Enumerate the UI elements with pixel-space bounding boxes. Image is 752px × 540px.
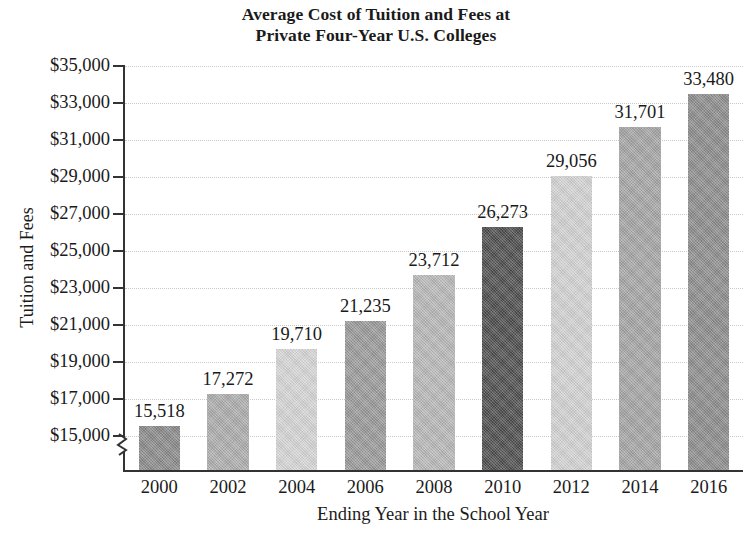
x-axis-tick-label: 2000	[125, 477, 194, 497]
y-axis-tick-label: $27,000	[10, 204, 110, 222]
y-axis-tick-label: $15,000	[10, 426, 110, 444]
bar-value-label: 15,518	[122, 402, 198, 421]
chart-title: Average Cost of Tuition and Fees at Priv…	[0, 4, 752, 46]
y-axis-tick-label: $33,000	[10, 93, 110, 111]
chart-title-line-1: Average Cost of Tuition and Fees at	[0, 4, 752, 25]
bar-value-label: 33,480	[671, 70, 747, 89]
bar	[551, 176, 592, 470]
x-axis-tick-label: 2006	[331, 477, 400, 497]
bar-value-label: 19,710	[259, 325, 335, 344]
bar-value-label: 29,056	[534, 152, 610, 171]
bar-value-label: 23,712	[396, 251, 472, 270]
x-axis-tick-label: 2016	[674, 477, 743, 497]
x-axis-tick-label: 2002	[194, 477, 263, 497]
x-axis-tick-label: 2012	[537, 477, 606, 497]
bar	[345, 321, 386, 470]
bar-value-label: 26,273	[465, 203, 541, 222]
x-axis-tick-label: 2004	[262, 477, 331, 497]
chart-page: Average Cost of Tuition and Fees at Priv…	[0, 0, 752, 540]
y-axis-tick-label: $23,000	[10, 278, 110, 296]
y-axis-tick-label: $19,000	[10, 352, 110, 370]
bar	[482, 227, 523, 470]
bar-value-label: 21,235	[328, 297, 404, 316]
y-axis-tick-label: $31,000	[10, 130, 110, 148]
bar	[619, 127, 660, 470]
y-axis-tick-label: $29,000	[10, 167, 110, 185]
y-axis-tick-label: $25,000	[10, 241, 110, 259]
bar	[413, 275, 454, 470]
bar-series: 15,51817,27219,71021,23523,71226,27329,0…	[125, 66, 743, 470]
y-axis-tick-labels: $35,000$33,000$31,000$29,000$27,000$25,0…	[5, 0, 110, 540]
x-axis-title: Ending Year in the School Year	[123, 504, 743, 525]
bar-value-label: 17,272	[190, 370, 266, 389]
bar-value-label: 31,701	[602, 103, 678, 122]
bar	[688, 94, 729, 470]
y-axis-tick-label: $21,000	[10, 315, 110, 333]
x-axis-tick-label: 2010	[468, 477, 537, 497]
x-axis-tick-label: 2014	[606, 477, 675, 497]
bar	[139, 426, 180, 470]
x-axis-tick-label: 2008	[400, 477, 469, 497]
y-axis-tick-label: $17,000	[10, 389, 110, 407]
y-axis-tick-label: $35,000	[10, 56, 110, 74]
bar	[276, 349, 317, 470]
x-axis-line	[123, 470, 743, 472]
chart-title-line-2: Private Four-Year U.S. Colleges	[0, 25, 752, 46]
bar	[207, 394, 248, 470]
